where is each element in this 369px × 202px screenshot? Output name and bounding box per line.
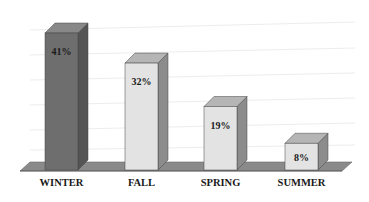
- value-label: 19%: [211, 120, 231, 131]
- bar-side-face: [158, 53, 168, 170]
- bar-side-face: [78, 23, 88, 170]
- category-label-summer: SUMMER: [278, 177, 326, 188]
- category-label-spring: SPRING: [201, 177, 241, 188]
- bar-spring: 19%: [204, 97, 247, 170]
- bar-summer: 8%: [285, 133, 328, 170]
- category-label-winter: WINTER: [40, 177, 84, 188]
- value-label: 8%: [294, 152, 309, 163]
- category-label-fall: FALL: [128, 177, 155, 188]
- bar-winter: 41%: [45, 23, 88, 170]
- value-label: 32%: [132, 76, 152, 87]
- bar-side-face: [237, 97, 247, 170]
- bar-front-face: [204, 107, 237, 170]
- category-labels: WINTERFALLSPRINGSUMMER: [40, 177, 326, 188]
- value-label: 41%: [52, 46, 72, 57]
- bar-chart: 41%32%19%8% WINTERFALLSPRINGSUMMER: [0, 0, 369, 202]
- bar-fall: 32%: [125, 53, 168, 170]
